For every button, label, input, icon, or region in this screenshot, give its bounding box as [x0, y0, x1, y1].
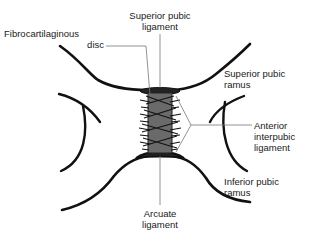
label-line: ligament	[122, 21, 198, 32]
label-line: interpubic	[254, 131, 295, 142]
label-line: ramus	[224, 79, 285, 90]
label-inferior-pubic-ramus: Inferior pubic ramus	[224, 176, 279, 198]
left-inferior-ramus-outline	[62, 156, 148, 210]
left-foramen-upper-arc	[59, 94, 100, 122]
label-line: Fibrocartilaginous	[4, 28, 104, 39]
right-foramen-lower-arc	[223, 102, 247, 171]
right-foramen-upper-arc	[210, 96, 244, 122]
label-line: disc	[4, 39, 104, 50]
left-foramen-lower-arc	[61, 106, 85, 171]
label-line: ligament	[126, 219, 194, 230]
label-arcuate-ligament: Arcuate ligament	[126, 208, 194, 230]
label-line: ligament	[254, 142, 295, 153]
label-line: Superior pubic	[122, 10, 198, 21]
label-anterior-interpubic-ligament: Anterior interpubic ligament	[254, 120, 295, 153]
label-line: Inferior pubic	[224, 176, 279, 187]
label-superior-pubic-ligament: Superior pubic ligament	[122, 10, 198, 32]
label-line: Anterior	[254, 120, 295, 131]
left-superior-ramus-outline	[60, 46, 148, 90]
pubic-symphysis-diagram: Superior pubic ligament Fibrocartilagino…	[0, 0, 310, 246]
label-line: ramus	[224, 187, 279, 198]
label-fibrocartilaginous-disc: Fibrocartilaginous disc	[4, 28, 104, 50]
label-superior-pubic-ramus: Superior pubic ramus	[224, 68, 285, 90]
label-line: Superior pubic	[224, 68, 285, 79]
label-line: Arcuate	[126, 208, 194, 219]
